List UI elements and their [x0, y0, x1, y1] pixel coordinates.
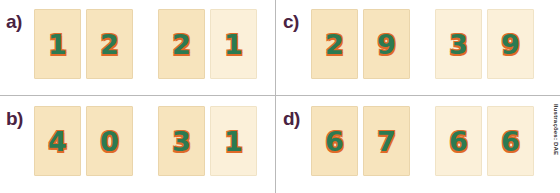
card-group-c-left: 2 9 [311, 9, 410, 79]
item-label-b: b) [6, 109, 23, 128]
card-digit: 6 [325, 128, 344, 155]
item-label-d: d) [283, 109, 300, 128]
number-card[interactable]: 2 [311, 9, 358, 79]
card-digit: 9 [501, 31, 520, 58]
card-digit: 2 [172, 31, 191, 58]
card-group-c-right: 3 9 [435, 9, 534, 79]
card-digit: 6 [501, 128, 520, 155]
illustration-credit: Ilustrações: DAE [549, 104, 559, 178]
card-group-a-right: 2 1 [158, 9, 257, 79]
number-card[interactable]: 6 [311, 106, 358, 176]
horizontal-divider [0, 95, 560, 96]
card-digit: 6 [449, 128, 468, 155]
vertical-divider [275, 0, 276, 193]
card-digit: 9 [377, 31, 396, 58]
number-card[interactable]: 3 [158, 106, 205, 176]
card-digit: 3 [449, 31, 468, 58]
number-card[interactable]: 7 [363, 106, 410, 176]
exercise-item-d: d) 6 7 6 6 [277, 97, 552, 192]
number-card[interactable]: 6 [487, 106, 534, 176]
card-digit: 1 [48, 31, 67, 58]
card-digit: 0 [100, 128, 119, 155]
exercise-item-a: a) 1 2 2 1 [0, 0, 275, 95]
number-card[interactable]: 9 [487, 9, 534, 79]
number-card[interactable]: 2 [158, 9, 205, 79]
item-label-a: a) [6, 12, 22, 31]
card-digit: 1 [224, 128, 243, 155]
number-card[interactable]: 4 [34, 106, 81, 176]
card-digit: 3 [172, 128, 191, 155]
card-group-a-left: 1 2 [34, 9, 133, 79]
card-digit: 2 [325, 31, 344, 58]
exercise-item-c: c) 2 9 3 9 [277, 0, 552, 95]
number-card[interactable]: 1 [210, 9, 257, 79]
card-digit: 1 [224, 31, 243, 58]
number-card[interactable]: 2 [86, 9, 133, 79]
number-card[interactable]: 1 [34, 9, 81, 79]
number-card[interactable]: 0 [86, 106, 133, 176]
card-digit: 7 [377, 128, 396, 155]
number-card[interactable]: 9 [363, 9, 410, 79]
card-group-b-right: 3 1 [158, 106, 257, 176]
number-card[interactable]: 3 [435, 9, 482, 79]
card-group-d-left: 6 7 [311, 106, 410, 176]
item-label-c: c) [283, 12, 299, 31]
number-card[interactable]: 1 [210, 106, 257, 176]
card-group-d-right: 6 6 [435, 106, 534, 176]
worksheet-page: a) 1 2 2 1 c) 2 9 [0, 0, 560, 193]
card-group-b-left: 4 0 [34, 106, 133, 176]
card-digit: 4 [48, 128, 67, 155]
card-digit: 2 [100, 31, 119, 58]
exercise-item-b: b) 4 0 3 1 [0, 97, 275, 192]
number-card[interactable]: 6 [435, 106, 482, 176]
